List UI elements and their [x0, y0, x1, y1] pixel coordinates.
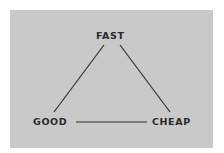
- edge-fast-cheap: [120, 45, 170, 112]
- edge-fast-good: [54, 45, 104, 112]
- node-good-label: GOOD: [33, 117, 67, 127]
- triangle-edges: [0, 0, 224, 153]
- node-fast-label: FAST: [96, 31, 124, 41]
- node-cheap-label: CHEAP: [152, 117, 191, 127]
